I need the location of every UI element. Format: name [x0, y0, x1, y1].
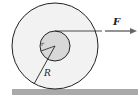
inner-radius-label: r	[41, 41, 44, 47]
ground-surface	[12, 89, 138, 95]
force-label: F	[113, 17, 120, 27]
spool-force-diagram: F R r	[0, 0, 140, 95]
diagram-graphic	[0, 0, 140, 95]
force-arrowhead-icon	[130, 28, 137, 34]
outer-radius-label: R	[44, 69, 51, 78]
